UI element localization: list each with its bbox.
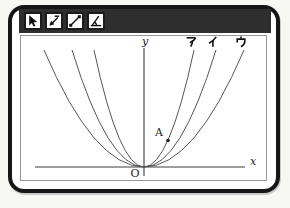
y-axis-label: y [141, 36, 149, 48]
point-a-label: A [154, 126, 164, 139]
curve-label-u-glyph [237, 37, 245, 47]
arrow-bar-icon [47, 14, 61, 28]
point-a-dot[interactable] [166, 139, 170, 143]
angle-tool-button[interactable] [87, 12, 105, 30]
curve-label-a-glyph [187, 38, 196, 47]
origin-label: O [130, 167, 139, 180]
segment-endpoints-icon [68, 14, 82, 28]
x-axis-label: x [250, 155, 257, 168]
curve-label-i-glyph [209, 37, 216, 47]
point-move-tool-button[interactable] [45, 12, 63, 30]
titlebar [19, 9, 271, 33]
cursor-arrow-icon [26, 14, 40, 28]
graph-canvas[interactable]: y x O A [20, 35, 267, 181]
select-tool-button[interactable] [24, 12, 42, 30]
graphing-software-window: y x O A [8, 5, 280, 193]
segment-tool-button[interactable] [66, 12, 84, 30]
angle-arc-icon [89, 14, 103, 28]
